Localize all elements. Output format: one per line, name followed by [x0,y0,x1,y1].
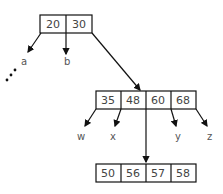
edge-to-x [115,109,121,126]
middle-node: 35 48 60 68 [96,91,196,109]
middle-key-1: 48 [126,94,140,107]
child-label-a: a [21,56,27,67]
child-label-b: b [64,56,70,67]
b-tree-diagram: 20 30 a b 35 48 60 68 w x y z 50 56 5 [0,0,223,194]
root-node: 20 30 [40,15,92,33]
edge-to-y [171,109,176,126]
middle-key-0: 35 [101,94,115,107]
child-label-y: y [175,131,181,142]
leaf-node: 50 56 57 58 [96,164,196,182]
child-label-w: w [77,131,85,142]
leaf-key-0: 50 [101,167,115,180]
middle-key-2: 60 [151,94,165,107]
edge-to-a [28,33,41,52]
leaf-key-2: 57 [151,167,165,180]
edge-to-w [85,109,96,126]
ellipsis-icon [6,69,17,82]
root-key-0: 20 [46,18,60,31]
child-label-x: x [110,131,116,142]
leaf-key-1: 56 [126,167,140,180]
child-label-z: z [207,131,212,142]
edge-to-z [196,109,207,126]
edge-to-middle [92,33,140,90]
middle-key-3: 68 [176,94,190,107]
root-key-1: 30 [72,18,86,31]
leaf-key-3: 58 [176,167,190,180]
